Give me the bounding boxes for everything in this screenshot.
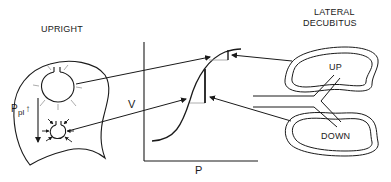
- upper-alveolus: [42, 67, 75, 102]
- up-lung-to-curve-arrow: [232, 55, 292, 61]
- upper-alveolus-pressure-arrows: [33, 65, 82, 110]
- upright-title: UPRIGHT: [41, 24, 83, 34]
- lateral-decubitus-title-line1: LATERAL: [314, 7, 355, 17]
- graph-axes: [144, 42, 258, 161]
- pressure-increase-arrow-icon: ↑: [26, 103, 31, 114]
- pressure-volume-curve: [152, 49, 241, 141]
- pleural-pressure-label: Ppl↑: [11, 104, 31, 115]
- pressure-symbol: P: [11, 103, 18, 114]
- down-lung-label: DOWN: [321, 131, 350, 141]
- lower-volume-step: [190, 69, 205, 103]
- lateral-decubitus-title-line2: DECUBITUS: [303, 18, 357, 28]
- lower-alveolus-to-curve-arrow: [68, 99, 186, 131]
- upper-alveolus-to-curve-arrow: [76, 57, 210, 84]
- pressure-subscript: pl: [18, 108, 25, 117]
- x-axis-label: P: [195, 165, 203, 175]
- y-axis-label: V: [128, 99, 136, 109]
- down-lung-to-curve-arrow: [210, 97, 291, 121]
- up-lung-label: UP: [329, 62, 342, 72]
